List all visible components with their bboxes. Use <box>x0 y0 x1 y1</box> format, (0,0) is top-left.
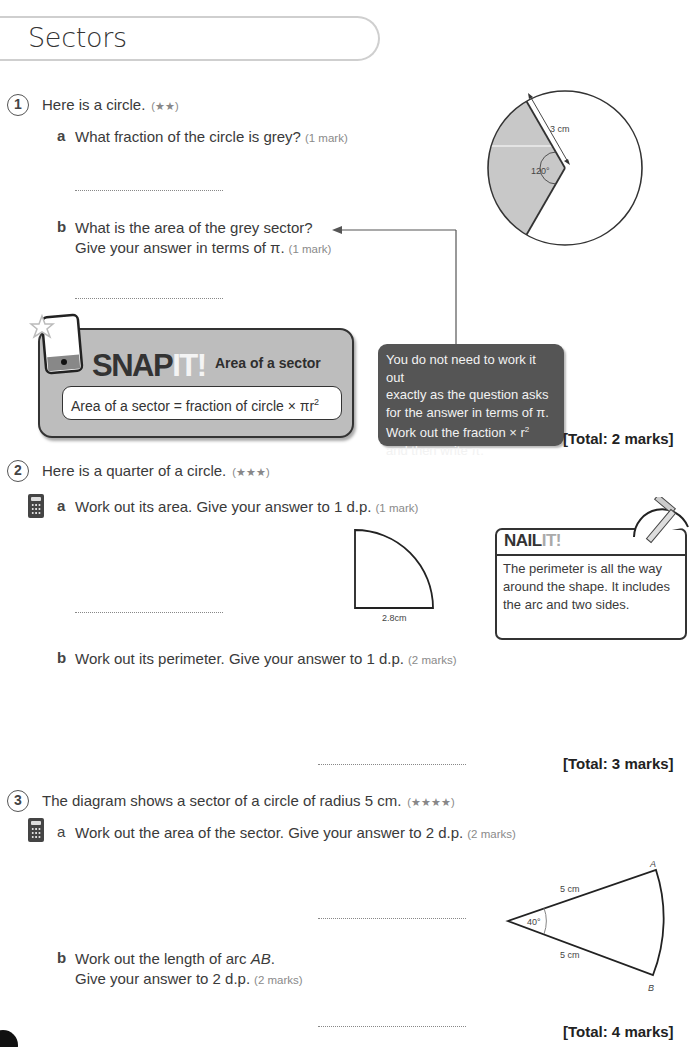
page-number-tab <box>0 1030 18 1047</box>
marks-label: (2 marks) <box>467 828 516 840</box>
marks-label: (2 marks) <box>408 654 457 666</box>
angle-label: 40° <box>527 917 541 927</box>
question-3a-text: Work out the area of the sector. Give yo… <box>75 823 516 844</box>
hint-callout: You do not need to work it out exactly a… <box>378 344 564 446</box>
punctuation: . <box>271 950 275 967</box>
sector-diagram: 40° 5 cm 5 cm A B <box>490 855 680 1005</box>
circle-sector-diagram: 120° 3 cm <box>470 90 670 260</box>
calculator-icon <box>28 818 44 842</box>
part-letter-1a: a <box>57 127 65 144</box>
marks-label: (1 mark) <box>376 502 419 514</box>
arc-name: AB <box>251 950 271 967</box>
side-label-bottom: 5 cm <box>560 950 580 960</box>
marks-label: (1 mark) <box>305 132 348 144</box>
nail-word: NAIL <box>504 531 542 550</box>
question-2a-text: Work out its area. Give your answer to 1… <box>75 497 418 518</box>
difficulty-stars: (★★) <box>151 100 178 112</box>
question-1b-line1: What is the area of the grey sector? <box>75 218 313 238</box>
nail-it-text: The perimeter is all the way around the … <box>503 560 683 614</box>
part-letter-2b: b <box>57 649 66 666</box>
answer-line-1b[interactable] <box>75 298 223 299</box>
side-label-top: 5 cm <box>560 884 580 894</box>
hint-line-5: and then write π. <box>386 442 556 460</box>
answer-line-1a[interactable] <box>75 190 223 191</box>
part-letter-2a: a <box>57 497 65 514</box>
question-number-2: 2 <box>7 460 29 482</box>
hint-superscript: 2 <box>525 425 529 434</box>
part-letter-1b: b <box>57 218 66 235</box>
radius-label: 3 cm <box>550 124 570 134</box>
point-b-label: B <box>648 983 654 993</box>
snap-it-brand: SNAPIT! <box>92 348 206 384</box>
question-1-text: Here is a circle.(★★) <box>42 95 179 116</box>
difficulty-stars: (★★★★) <box>407 796 454 808</box>
question-2a-prompt: Work out its area. Give your answer to 1… <box>75 498 372 515</box>
part-letter-3a: a <box>57 823 65 840</box>
difficulty-stars: (★★★) <box>232 466 269 478</box>
question-3b-line2: Give your answer to 2 d.p.(2 marks) <box>75 969 303 990</box>
hint-arrow <box>330 218 470 348</box>
question-3b-instruction: Give your answer to 2 d.p. <box>75 970 250 987</box>
hint-line-2: exactly as the question asks <box>386 386 556 404</box>
question-3b-prompt: Work out the length of arc <box>75 950 251 967</box>
angle-label: 120° <box>531 166 550 176</box>
question-2b-text: Work out its perimeter. Give your answer… <box>75 649 457 670</box>
phone-icon <box>20 312 90 384</box>
question-1b-prompt: Give your answer in terms of π. <box>75 239 285 256</box>
radius-label: 2.8cm <box>382 613 407 623</box>
nail-it-brand: NAILIT! <box>504 531 561 551</box>
formula-text: Area of a sector = fraction of circle × … <box>71 398 314 414</box>
quarter-circle-diagram: 2.8cm <box>350 525 450 625</box>
question-3-prompt: The diagram shows a sector of a circle o… <box>42 792 401 809</box>
question-1a-text: What fraction of the circle is grey?(1 m… <box>75 127 348 148</box>
question-2-text: Here is a quarter of a circle.(★★★) <box>42 461 270 482</box>
hint-line-1: You do not need to work it out <box>386 351 556 386</box>
answer-line-2a[interactable] <box>75 612 223 613</box>
marks-label: (1 mark) <box>289 243 332 255</box>
divider <box>495 554 687 556</box>
part-letter-3b: b <box>57 949 66 966</box>
question-3b-line1: Work out the length of arc AB. <box>75 949 275 969</box>
formula-superscript: 2 <box>314 397 319 407</box>
point-a-label: A <box>649 859 656 869</box>
calculator-icon <box>28 494 44 518</box>
question-number-3: 3 <box>7 790 29 812</box>
answer-line-2b[interactable] <box>318 764 466 765</box>
question-3a-prompt: Work out the area of the sector. Give yo… <box>75 824 463 841</box>
question-3-text: The diagram shows a sector of a circle o… <box>42 791 455 812</box>
hint-line-3: for the answer in terms of π. <box>386 404 556 422</box>
nail-icon <box>630 497 690 557</box>
snap-it-heading: Area of a sector <box>215 355 321 371</box>
hint-line-4: Work out the fraction × r2 <box>386 421 556 442</box>
page-title: Sectors <box>28 22 127 53</box>
question-2-prompt: Here is a quarter of a circle. <box>42 462 226 479</box>
answer-line-3b[interactable] <box>318 1026 466 1027</box>
snap-it-word: IT! <box>172 348 205 383</box>
hint-line-4-text: Work out the fraction × r <box>386 425 525 440</box>
total-marks-q2: [Total: 3 marks] <box>563 755 674 772</box>
question-2b-prompt: Work out its perimeter. Give your answer… <box>75 650 404 667</box>
answer-line-3a[interactable] <box>318 918 466 919</box>
marks-label: (2 marks) <box>254 974 303 986</box>
snap-word: SNAP <box>92 348 172 383</box>
question-1-prompt: Here is a circle. <box>42 96 145 113</box>
nail-it-word: IT! <box>542 531 561 550</box>
question-1a-prompt: What fraction of the circle is grey? <box>75 128 301 145</box>
total-marks-q3: [Total: 4 marks] <box>563 1023 674 1040</box>
question-1b-line2: Give your answer in terms of π.(1 mark) <box>75 238 331 259</box>
question-number-1: 1 <box>7 94 29 116</box>
snap-it-formula: Area of a sector = fraction of circle × … <box>62 386 342 420</box>
total-marks-q1: [Total: 2 marks] <box>563 430 674 447</box>
